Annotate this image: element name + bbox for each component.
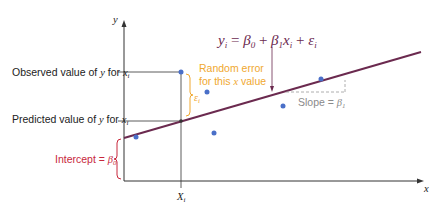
predicted-point: [179, 119, 183, 123]
data-point: [212, 131, 217, 136]
predicted-label: Predicted value of y for xi: [12, 113, 128, 127]
error-brace: [186, 74, 193, 116]
regression-diagram: y x yi = β0 + β1xi + εi Observed value o: [0, 0, 439, 217]
data-point: [319, 77, 324, 82]
y-axis: [122, 20, 127, 181]
data-point: [281, 104, 286, 109]
data-point: [205, 90, 210, 95]
y-axis-label: y: [112, 14, 118, 25]
data-point: [134, 135, 139, 140]
slope-label: Slope = β1: [298, 96, 346, 110]
equation-arrow: [270, 47, 274, 92]
epsilon-label: εi: [194, 92, 200, 105]
intercept-label: Intercept = β0: [55, 153, 117, 167]
regression-line: [124, 52, 421, 138]
random-error-label-line1: Random error: [199, 62, 264, 74]
regression-equation: yi = β0 + β1xi + εi: [216, 32, 317, 50]
observed-label: Observed value of y for xi: [12, 66, 130, 80]
xi-label: Xi: [176, 191, 185, 204]
x-axis-label: x: [423, 183, 429, 194]
observed-point: [179, 70, 184, 75]
x-axis: [124, 179, 424, 184]
random-error-label-line2: for this x value: [199, 75, 266, 87]
